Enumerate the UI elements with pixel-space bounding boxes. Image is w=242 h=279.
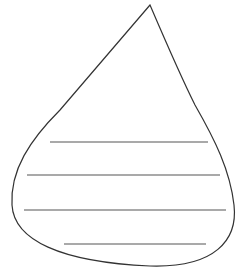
teardrop-outline xyxy=(12,5,235,266)
teardrop-drawing xyxy=(0,0,242,279)
ruled-lines xyxy=(24,142,226,244)
teardrop-writing-template xyxy=(0,0,242,279)
